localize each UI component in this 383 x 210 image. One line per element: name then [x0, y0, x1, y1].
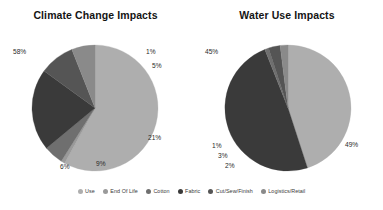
pie-slices-water-use [225, 45, 351, 171]
pie-slices-climate-change [32, 45, 158, 171]
legend-item[interactable]: Use [78, 188, 95, 194]
legend-swatch-icon [208, 189, 213, 194]
legend-item[interactable]: Cut/Sew/Finish [208, 188, 252, 194]
slice-label-left-use: 58% [13, 48, 26, 55]
slice-label-right-use: 45% [205, 48, 218, 55]
legend-item[interactable]: End Of Life [103, 188, 138, 194]
slice-label-left-fabric: 21% [148, 134, 161, 141]
pie-chart-figure: Climate Change Impacts Water Use Impacts… [0, 0, 383, 210]
chart-title-water-use: Water Use Impacts [191, 9, 383, 21]
legend-swatch-icon [261, 189, 266, 194]
slice-label-right-logistics: 2% [225, 162, 235, 169]
legend-item-label: Logistics/Retail [268, 188, 305, 194]
legend-item-label: Fabric [185, 188, 200, 194]
legend-item[interactable]: Cotton [146, 188, 170, 194]
slice-label-right-cotton: 1% [212, 142, 222, 149]
chart-legend: UseEnd Of LifeCottonFabricCut/Sew/Finish… [0, 188, 383, 194]
legend-item-label: Use [85, 188, 95, 194]
slice-label-left-end-of-life: 1% [146, 48, 156, 55]
pie-chart-climate-change [30, 43, 160, 173]
legend-swatch-icon [103, 189, 108, 194]
legend-item-label: Cotton [153, 188, 169, 194]
slice-label-right-cut-sew-finish: 3% [218, 152, 228, 159]
legend-item-label: Cut/Sew/Finish [216, 188, 253, 194]
legend-item[interactable]: Logistics/Retail [261, 188, 306, 194]
legend-swatch-icon [146, 189, 151, 194]
pie-chart-water-use [223, 43, 353, 173]
chart-title-climate-change: Climate Change Impacts [0, 9, 191, 21]
legend-swatch-icon [78, 189, 83, 194]
legend-item[interactable]: Fabric [178, 188, 201, 194]
pie-svg-climate-change [30, 43, 160, 173]
slice-label-left-cotton: 5% [152, 62, 162, 69]
slice-label-left-cut-sew-finish: 9% [96, 160, 106, 167]
legend-item-label: End Of Life [110, 188, 138, 194]
legend-swatch-icon [178, 189, 183, 194]
slice-label-left-logistics: 6% [60, 163, 70, 170]
pie-svg-water-use [223, 43, 353, 173]
slice-label-right-fabric: 49% [345, 141, 358, 148]
